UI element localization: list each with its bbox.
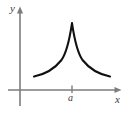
x-tick-label-a: a	[68, 93, 73, 103]
curve-right-branch	[72, 23, 110, 76]
x-axis-label: x	[115, 94, 120, 105]
graph-canvas	[0, 0, 129, 116]
curve-left-branch	[34, 23, 72, 76]
y-axis-arrowhead-icon	[17, 7, 23, 14]
y-axis-label: y	[10, 3, 15, 14]
cusp-graph-figure: y x a	[0, 0, 129, 116]
